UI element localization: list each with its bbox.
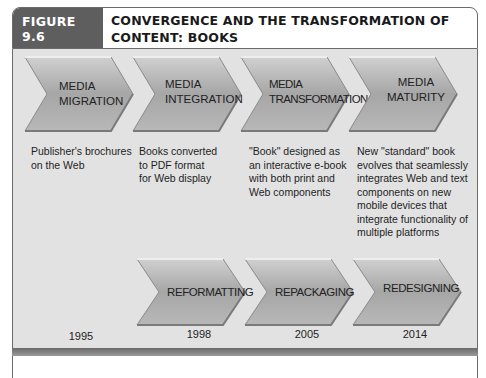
stage-label-line1: MEDIA bbox=[59, 79, 123, 94]
stage-label-line1: MEDIA bbox=[165, 77, 243, 92]
figure-label: FIGURE 9.6 bbox=[13, 8, 103, 49]
stage-label-line2: MATURITY bbox=[387, 90, 445, 105]
process-label: REDESIGNING bbox=[383, 281, 459, 296]
stage-description: Publisher's brochures on the Web bbox=[31, 145, 143, 172]
chevron-repackaging: REPACKAGING bbox=[243, 257, 355, 327]
frame-edge-right bbox=[477, 356, 478, 378]
process-label: REPACKAGING bbox=[275, 285, 354, 300]
year-label: 2014 bbox=[385, 328, 445, 340]
stage-description: New "standard" book evolves that seamles… bbox=[357, 145, 477, 240]
figure-title: CONVERGENCE AND THE TRANSFORMATION OF CO… bbox=[111, 12, 471, 46]
diagram-panel: MEDIA MIGRATION MEDIA INTEGRATION ME bbox=[12, 49, 478, 349]
stage-description: "Book" designed as an interactive e-book… bbox=[249, 145, 354, 199]
chevron-reformatting: REFORMATTING bbox=[135, 257, 247, 327]
year-label: 1995 bbox=[51, 330, 111, 342]
frame-edge-left bbox=[12, 356, 13, 378]
chevron-media-maturity: MEDIA MATURITY bbox=[347, 55, 459, 133]
stage-description: Books converted to PDF format for Web di… bbox=[139, 145, 219, 186]
chevron-media-integration: MEDIA INTEGRATION bbox=[131, 55, 243, 133]
chevron-media-transformation: MEDIA TRANSFORMATION bbox=[239, 55, 351, 133]
bottom-divider bbox=[12, 348, 478, 356]
figure-frame: FIGURE 9.6 CONVERGENCE AND THE TRANSFORM… bbox=[12, 7, 478, 378]
figure-header: FIGURE 9.6 CONVERGENCE AND THE TRANSFORM… bbox=[12, 7, 478, 49]
stage-label-line1: MEDIA bbox=[387, 75, 445, 90]
chevron-media-migration: MEDIA MIGRATION bbox=[23, 55, 135, 133]
stage-label-line2: INTEGRATION bbox=[165, 92, 243, 107]
process-label: REFORMATTING bbox=[167, 285, 253, 300]
stage-label-line2: MIGRATION bbox=[59, 94, 123, 109]
year-label: 1998 bbox=[169, 328, 229, 340]
chevron-redesigning: REDESIGNING bbox=[351, 257, 463, 327]
year-label: 2005 bbox=[277, 328, 337, 340]
